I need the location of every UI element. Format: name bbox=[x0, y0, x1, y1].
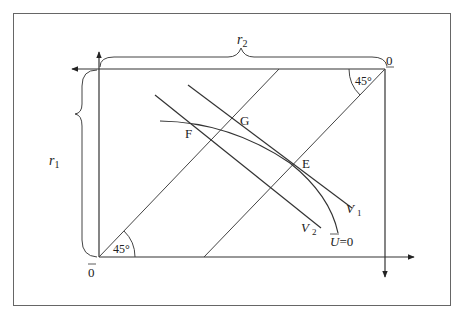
angle-top-label: 45° bbox=[355, 74, 372, 88]
point-f-label: F bbox=[185, 126, 192, 141]
v1-label: V1 bbox=[346, 201, 361, 218]
origin-bottom-label: 0 bbox=[88, 265, 95, 280]
r1-brace bbox=[75, 70, 97, 257]
v1-line bbox=[188, 85, 352, 208]
edgeworth-box-diagram: r2 r1 0 0 45° 45° F G E V1 V2 U=0 bbox=[0, 0, 467, 324]
r2-label: r2 bbox=[237, 32, 247, 49]
point-g-label: G bbox=[240, 113, 249, 128]
angle-bottom-label: 45° bbox=[113, 242, 130, 256]
u-curve-label: U=0 bbox=[330, 234, 353, 249]
origin-top-label: 0 bbox=[386, 53, 393, 68]
diagonal-from-top-origin bbox=[204, 69, 385, 257]
r1-label: r1 bbox=[49, 153, 59, 170]
r2-brace bbox=[100, 48, 387, 67]
diagonal-from-bottom-origin bbox=[99, 69, 279, 257]
point-e-label: E bbox=[302, 156, 310, 171]
